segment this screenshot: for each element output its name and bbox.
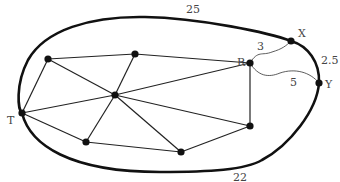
node-T bbox=[18, 109, 25, 116]
node-label-Y: Y bbox=[324, 78, 333, 91]
node-A bbox=[44, 55, 51, 62]
edge-B-R bbox=[135, 54, 250, 63]
curved-edge-label-R-Y: 5 bbox=[290, 76, 297, 89]
edge-C-R bbox=[115, 63, 250, 95]
edge-C-E bbox=[115, 95, 181, 152]
node-label-T: T bbox=[7, 114, 15, 127]
node-X bbox=[287, 37, 294, 44]
node-F bbox=[246, 122, 253, 129]
edges-group bbox=[22, 54, 250, 152]
boundary-label-bottom: 22 bbox=[233, 171, 247, 182]
graph-diagram: 25 22 2.5 3 5 T R X Y bbox=[0, 0, 340, 182]
node-Y bbox=[315, 79, 322, 86]
edge-C-D bbox=[86, 95, 115, 142]
node-R bbox=[246, 59, 253, 66]
curved-edge-label-R-X: 3 bbox=[257, 40, 264, 53]
boundary-label-top: 25 bbox=[186, 3, 200, 16]
edge-C-F bbox=[115, 95, 250, 126]
edge-B-C bbox=[115, 54, 135, 95]
node-label-X: X bbox=[298, 27, 306, 40]
node-C bbox=[111, 91, 118, 98]
region-boundary bbox=[19, 17, 319, 172]
curved-edge-R-Y bbox=[250, 63, 319, 83]
nodes-group bbox=[18, 37, 322, 155]
edge-A-C bbox=[48, 59, 115, 95]
node-label-R: R bbox=[237, 56, 246, 69]
node-D bbox=[82, 138, 89, 145]
edge-A-B bbox=[48, 54, 135, 59]
edge-T-C bbox=[22, 95, 115, 113]
boundary-label-right: 2.5 bbox=[321, 54, 339, 67]
node-B bbox=[131, 50, 138, 57]
node-E bbox=[177, 148, 184, 155]
edge-T-D bbox=[22, 113, 86, 142]
edge-E-F bbox=[181, 126, 250, 152]
edge-D-E bbox=[86, 142, 181, 152]
